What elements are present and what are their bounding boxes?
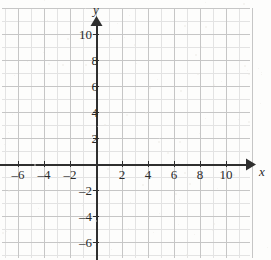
- paper-speck: [248, 121, 250, 123]
- x-tick-label: 4: [134, 168, 162, 181]
- paper-speck: [43, 52, 44, 53]
- paper-speck: [167, 152, 169, 154]
- paper-speck: [124, 37, 125, 38]
- paper-speck: [243, 3, 245, 5]
- paper-speck: [107, 168, 109, 170]
- paper-speck: [238, 119, 239, 120]
- paper-speck: [261, 74, 262, 75]
- paper-speck: [197, 73, 199, 75]
- paper-speck: [117, 23, 118, 24]
- paper-speck: [158, 141, 160, 143]
- paper-speck: [142, 184, 144, 186]
- paper-speck: [47, 20, 48, 21]
- paper-speck: [85, 64, 87, 66]
- paper-speck: [126, 114, 128, 116]
- paper-speck: [6, 231, 7, 232]
- y-tick-label: 10: [76, 28, 92, 41]
- x-axis-label: x: [259, 165, 265, 178]
- paper-speck: [128, 228, 129, 229]
- paper-speck: [48, 63, 50, 65]
- paper-speck: [260, 174, 262, 176]
- paper-speck: [41, 227, 42, 228]
- paper-speck: [244, 65, 246, 67]
- paper-speck: [180, 90, 182, 92]
- paper-speck: [239, 193, 240, 194]
- x-tick-label: –4: [30, 168, 58, 181]
- paper-speck: [34, 164, 36, 166]
- paper-speck: [83, 72, 84, 73]
- paper-speck: [205, 2, 206, 3]
- x-tick-label: 8: [186, 168, 214, 181]
- paper-speck: [48, 185, 49, 186]
- paper-speck: [4, 144, 5, 145]
- y-tick-label: –6: [76, 236, 92, 249]
- coordinate-plane-figure: –6–4–2246810 108642–2–4–6 x y: [0, 0, 271, 260]
- paper-speck: [44, 0, 45, 1]
- paper-speck: [16, 240, 17, 241]
- paper-speck: [178, 224, 179, 225]
- paper-speck: [186, 254, 188, 256]
- paper-speck: [175, 193, 177, 195]
- paper-speck: [111, 249, 112, 250]
- paper-speck: [95, 245, 96, 246]
- paper-speck: [12, 114, 13, 115]
- paper-speck: [178, 163, 179, 164]
- paper-speck: [134, 44, 136, 46]
- paper-speck: [27, 61, 28, 62]
- y-tick-label: 4: [82, 106, 98, 119]
- paper-speck: [199, 133, 200, 134]
- paper-speck: [233, 174, 235, 176]
- paper-speck: [62, 64, 64, 66]
- paper-speck: [184, 25, 186, 27]
- x-tick-label: –6: [4, 168, 32, 181]
- paper-speck: [59, 243, 60, 244]
- paper-speck: [248, 73, 250, 75]
- y-tick-label: 6: [82, 80, 98, 93]
- paper-speck: [14, 75, 15, 76]
- paper-speck: [179, 141, 181, 143]
- paper-speck: [261, 72, 262, 73]
- paper-speck: [213, 84, 215, 86]
- paper-speck: [247, 70, 248, 71]
- paper-speck: [201, 46, 202, 47]
- y-tick-label: 2: [82, 132, 98, 145]
- paper-speck: [129, 15, 130, 16]
- paper-speck: [2, 232, 4, 234]
- x-tick-label: 10: [212, 168, 240, 181]
- paper-speck: [205, 118, 206, 119]
- paper-speck: [85, 8, 86, 9]
- paper-speck: [145, 112, 147, 114]
- paper-speck: [95, 220, 97, 222]
- paper-speck: [67, 38, 69, 40]
- paper-speck: [184, 172, 186, 174]
- grid-and-axes: [0, 0, 271, 260]
- paper-speck: [159, 213, 160, 214]
- y-tick-label: –4: [76, 210, 92, 223]
- paper-speck: [179, 199, 180, 200]
- paper-speck: [8, 132, 9, 133]
- x-tick-label: 2: [108, 168, 136, 181]
- paper-speck: [221, 81, 222, 82]
- paper-speck: [38, 208, 39, 209]
- paper-speck: [194, 234, 195, 235]
- paper-speck: [195, 54, 197, 56]
- paper-speck: [8, 190, 10, 192]
- paper-speck: [37, 255, 38, 256]
- paper-speck: [135, 181, 136, 182]
- paper-speck: [149, 87, 151, 89]
- paper-speck: [174, 202, 176, 204]
- paper-speck: [258, 68, 259, 69]
- paper-speck: [130, 202, 131, 203]
- x-tick-label: 6: [160, 168, 188, 181]
- x-tick-label: –2: [56, 168, 84, 181]
- paper-speck: [38, 170, 39, 171]
- paper-speck: [97, 126, 98, 127]
- paper-speck: [111, 39, 112, 40]
- paper-speck: [213, 223, 215, 225]
- y-axis-label: y: [93, 3, 99, 16]
- paper-speck: [157, 79, 158, 80]
- paper-speck: [153, 232, 154, 233]
- paper-speck: [189, 183, 191, 185]
- paper-speck: [104, 124, 106, 126]
- y-tick-label: –2: [76, 184, 92, 197]
